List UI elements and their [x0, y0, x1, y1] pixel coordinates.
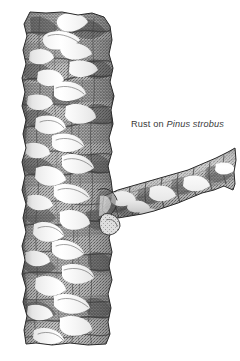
pine-rust-illustration: [0, 0, 240, 361]
trunk-shape: [18, 8, 120, 350]
caption-species-name: Pinus strobus: [166, 119, 224, 129]
caption-prefix: Rust on: [131, 119, 166, 129]
figure-page: Rust on Pinus strobus: [0, 0, 240, 361]
figure-caption: Rust on Pinus strobus: [131, 118, 239, 130]
